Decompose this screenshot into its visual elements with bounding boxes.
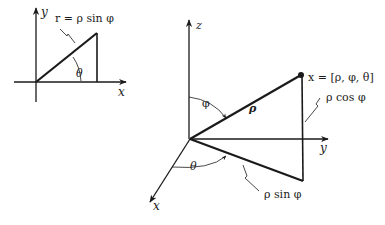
right-y-axis-label: y bbox=[319, 141, 327, 155]
right-z-axis-label: z bbox=[195, 19, 202, 32]
right-rho-cos-label: ρ cos φ bbox=[326, 91, 366, 104]
point-x-marker bbox=[298, 72, 304, 78]
right-x-axis bbox=[150, 139, 190, 202]
right-x-axis-label: x bbox=[153, 199, 160, 213]
spherical-coordinates-figure: y x r = ρ sin φ θ z y x x = [ρ, φ, θ] ρ … bbox=[0, 0, 385, 225]
left-r-leader bbox=[60, 29, 75, 43]
right-rho-sin-leader bbox=[243, 165, 259, 191]
right-rho-label: ρ bbox=[248, 102, 257, 115]
left-theta-label: θ bbox=[76, 67, 83, 80]
point-x-label: x = [ρ, φ, θ] bbox=[308, 71, 374, 84]
left-r-equation: r = ρ sin φ bbox=[55, 12, 114, 25]
spherical-3d-diagram: z y x x = [ρ, φ, θ] ρ cos φ ρ ρ sin φ φ … bbox=[150, 19, 374, 213]
right-theta-arc bbox=[172, 156, 226, 168]
right-rho-cos-segment bbox=[302, 75, 303, 181]
left-x-axis-label: x bbox=[118, 85, 125, 99]
right-rho-sin-label: ρ sin φ bbox=[264, 188, 302, 201]
right-rho-cos-leader bbox=[305, 98, 320, 122]
polar-projection-diagram: y x r = ρ sin φ θ bbox=[14, 5, 126, 102]
left-y-axis-label: y bbox=[40, 5, 48, 19]
left-r-segment bbox=[36, 33, 97, 82]
right-phi-label: φ bbox=[202, 97, 210, 110]
right-theta-label: θ bbox=[190, 160, 197, 173]
